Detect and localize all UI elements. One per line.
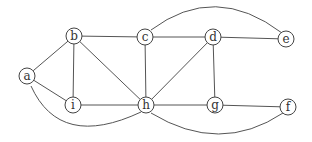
node-label: i	[71, 98, 75, 112]
graph-diagram: abcdeihgf	[0, 0, 312, 142]
edge-b-c	[74, 36, 145, 37]
edge-h-f	[151, 113, 283, 134]
edge-b-h	[74, 36, 146, 105]
edge-c-h	[145, 37, 146, 105]
node-g: g	[207, 97, 223, 113]
node-label: b	[70, 29, 78, 43]
edge-d-g	[213, 37, 215, 105]
node-label: e	[282, 32, 289, 46]
edges-layer	[27, 7, 288, 134]
edge-a-b	[27, 36, 74, 76]
node-label: c	[142, 30, 149, 44]
node-label: d	[209, 30, 217, 44]
edge-g-f	[215, 105, 288, 107]
nodes-layer: abcdeihgf	[19, 28, 296, 115]
edge-b-i	[73, 36, 74, 105]
node-d: d	[205, 29, 221, 45]
node-label: g	[211, 98, 219, 112]
node-c: c	[137, 29, 153, 45]
node-b: b	[66, 28, 82, 44]
edge-d-e	[213, 37, 286, 39]
node-f: f	[280, 99, 296, 115]
node-label: a	[23, 69, 30, 83]
node-h: h	[138, 97, 154, 113]
edge-a-h	[31, 86, 141, 126]
node-i: i	[65, 97, 81, 113]
node-e: e	[278, 31, 294, 47]
edge-d-h	[146, 37, 213, 105]
node-a: a	[19, 68, 35, 84]
node-label: h	[142, 98, 150, 112]
